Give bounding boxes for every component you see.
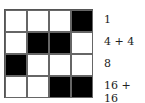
grid-cell bbox=[49, 32, 71, 54]
row-label-4: 16 + 16 bbox=[104, 79, 145, 103]
grid-cell bbox=[71, 32, 93, 54]
row-label-1: 1 bbox=[104, 13, 111, 26]
grid-cell bbox=[27, 54, 49, 76]
grid-cell bbox=[71, 76, 93, 98]
grid-cell bbox=[49, 10, 71, 32]
grid-cell bbox=[27, 32, 49, 54]
grid-cell bbox=[49, 76, 71, 98]
grid-cell bbox=[71, 10, 93, 32]
grid-cell bbox=[5, 54, 27, 76]
grid-cell bbox=[27, 76, 49, 98]
row-label-2: 4 + 4 bbox=[104, 35, 134, 48]
grid-cell bbox=[49, 54, 71, 76]
grid-cell bbox=[5, 76, 27, 98]
row-label-3: 8 bbox=[104, 57, 111, 70]
grid-cell bbox=[5, 32, 27, 54]
binary-grid bbox=[4, 9, 93, 98]
grid-cell bbox=[5, 10, 27, 32]
grid-cell bbox=[27, 10, 49, 32]
grid-cell bbox=[71, 54, 93, 76]
